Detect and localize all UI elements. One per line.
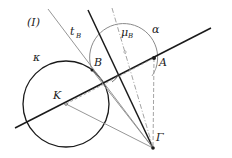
point-K	[65, 103, 68, 106]
line-K-gamma	[66, 104, 153, 148]
label-tB: t	[70, 25, 75, 38]
point-gamma	[151, 146, 155, 150]
label-B: B	[93, 56, 102, 69]
bisector-muB	[112, 8, 153, 148]
panel-label: (I)	[27, 16, 40, 29]
label-alpha: α	[152, 23, 160, 36]
label-gamma: Γ	[155, 131, 164, 144]
dashed-A-gamma	[153, 58, 154, 148]
label-K: K	[52, 89, 62, 102]
label-A: A	[158, 56, 167, 69]
label-muB-sub: B	[127, 32, 133, 40]
geometry-diagram: (I) κ α t B μ B A B K Γ	[0, 0, 232, 158]
label-tB-sub: B	[75, 32, 81, 40]
line-KA	[15, 28, 211, 128]
label-kappa: κ	[32, 51, 41, 64]
mu-marker	[124, 51, 126, 53]
point-A	[152, 56, 156, 60]
dashed-K-A	[66, 58, 154, 104]
